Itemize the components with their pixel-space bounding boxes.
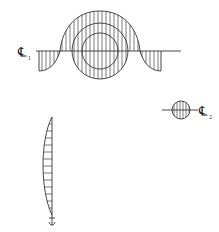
lens-distribution: [35, 117, 60, 225]
horizontal-hatching: [35, 124, 60, 208]
small-circle: [162, 95, 198, 125]
diagram-canvas: ℄ 1 ℄ 2: [0, 0, 219, 232]
centerline-2-label: ℄ 2: [198, 103, 212, 120]
centerline-mark-icon: [49, 215, 55, 225]
main-outline: [39, 11, 161, 71]
centerline-symbol: ℄: [198, 103, 208, 118]
centerline-subscript: 2: [209, 114, 212, 120]
centerline-subscript: 1: [28, 55, 31, 61]
vertical-hatching: [42, 0, 158, 100]
main-distribution: [36, 0, 181, 100]
centerline-symbol: ℄: [17, 44, 27, 59]
centerline-1-label: ℄ 1: [17, 44, 31, 61]
